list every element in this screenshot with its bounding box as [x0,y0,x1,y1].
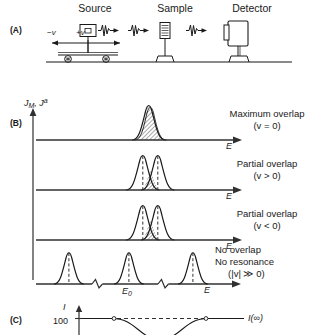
panel-b-row-4-x-label: E [204,285,210,295]
panel-b-tag: (B) [10,118,22,128]
panel-c-y-axis-label: I [63,302,66,312]
panel-b-row-3-title: Partial overlap [215,208,319,219]
panel-c-y-tick-100: 100 [53,316,68,326]
panel-b-e-zero-label: E0 [122,286,132,297]
panel-b-row-2-title: Partial overlap [215,158,319,169]
panel-c-tag: (C) [10,315,22,325]
panel-b-row-1-title: Maximum overlap [215,108,319,119]
header-source: Source [55,2,135,14]
panel-b-row-2-condition: (v > 0) [215,170,319,181]
panel-a-tag: (A) [10,25,22,35]
header-sample: Sample [140,2,210,14]
mossbauer-figure: (A) Source Sample Detector [0,0,320,335]
panel-b-row-4-title2: No resonance [215,256,319,267]
panel-c-curve-label: I(∞) [248,313,263,323]
panel-b-row-1-condition: (v = 0) [215,120,319,131]
panel-b-row-4-title: No overlap [215,244,319,255]
velocity-left-label: −v [47,28,56,37]
velocity-right-label: +v [76,28,85,37]
panel-c-plot [72,305,272,335]
panel-b-row-4-condition: (|v| ≫ 0) [228,268,318,279]
panel-b-row-3-condition: (v < 0) [215,220,319,231]
header-detector: Detector [212,2,292,14]
e-zero-sub: 0 [128,290,132,297]
apparatus-diagram [40,16,300,68]
